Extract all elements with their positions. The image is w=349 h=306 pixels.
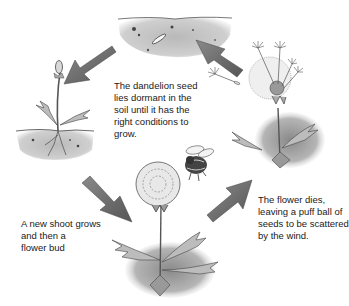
caption-seed-in-soil: The dandelion seed lies dormant in the s… bbox=[114, 80, 197, 140]
arrow-seed-to-shoot bbox=[64, 46, 116, 84]
diagram-illustration bbox=[0, 0, 349, 306]
arrow-shoot-to-flower bbox=[82, 176, 132, 222]
dandelion-life-cycle-diagram: The dandelion seed lies dormant in the s… bbox=[0, 0, 349, 306]
bee-icon bbox=[185, 144, 215, 181]
arrow-flower-to-seedhead bbox=[207, 180, 252, 222]
caption-seed-dispersal: The flower dies, leaving a puff ball of … bbox=[258, 194, 349, 242]
flowering-plant-illustration bbox=[112, 144, 218, 298]
caption-shoot-and-bud: A new shoot grows and then a flower bud bbox=[21, 218, 101, 254]
